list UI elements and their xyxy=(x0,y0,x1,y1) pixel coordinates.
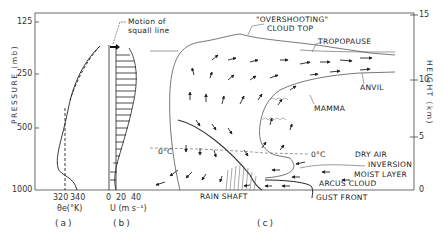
pressure-axis-label: PRESSURE (mb) xyxy=(10,45,19,124)
panel-label-c: (c) xyxy=(257,218,275,228)
tropopause-line xyxy=(300,50,395,52)
u-tick-20: 20 xyxy=(116,193,126,202)
arcus-cloud-label: ARCUS CLOUD xyxy=(319,179,376,188)
pressure-tick-250: 250 xyxy=(17,69,32,78)
rain-shaft xyxy=(226,165,256,190)
panel-label-a: (a) xyxy=(55,218,74,228)
motion-arrow-icon xyxy=(110,44,120,50)
rain-shaft-label: RAIN SHAFT xyxy=(200,192,248,201)
panel-label-b: (b) xyxy=(113,218,132,228)
mamma-label: MAMMA xyxy=(314,104,345,113)
pressure-tick-1000: 1000 xyxy=(12,185,32,194)
wind-profile xyxy=(109,45,137,190)
anvil-label: ANVIL xyxy=(360,83,384,92)
cloud-outline xyxy=(170,34,395,190)
dry-air-label: DRY AIR xyxy=(355,150,387,159)
moist-layer-label: MOIST LAYER xyxy=(354,170,407,179)
theta-axis-label: θe(°K) xyxy=(57,204,82,213)
pressure-tick-125: 125 xyxy=(17,17,32,26)
tropopause-label: TROPOPAUSE xyxy=(318,37,371,46)
theta-tick-340: 340 xyxy=(70,193,85,202)
pressure-ticks xyxy=(35,22,39,128)
gust-front-outline xyxy=(265,180,313,198)
height-tick-0: 0 xyxy=(419,185,424,194)
height-tick-5: 5 xyxy=(419,132,424,141)
u-tick-0: 0 xyxy=(106,193,111,202)
inversion-line xyxy=(300,165,365,168)
u-tick-40: 40 xyxy=(131,193,141,202)
freezing-level-right-label: 0°C xyxy=(311,150,326,159)
inversion-label: INVERSION xyxy=(368,160,412,169)
cloud-top-label: CLOUD TOP xyxy=(267,24,313,33)
u-axis-label: U (m s⁻¹) xyxy=(110,204,147,213)
pressure-tick-500: 500 xyxy=(17,123,32,132)
height-tick-15: 15 xyxy=(419,10,429,19)
theta-tick-320: 320 xyxy=(53,193,68,202)
gust-front-label: GUST FRONT xyxy=(316,193,368,202)
freezing-level-left-label: 0°C xyxy=(158,147,173,156)
motion-annotation: Motion of squall line xyxy=(128,17,174,35)
theta-e-profiles xyxy=(57,46,100,190)
height-axis-label: HEIGHT (km) xyxy=(425,60,434,125)
mamma xyxy=(262,98,288,120)
overshooting-label: "OVERSHOOTING" xyxy=(256,15,328,24)
